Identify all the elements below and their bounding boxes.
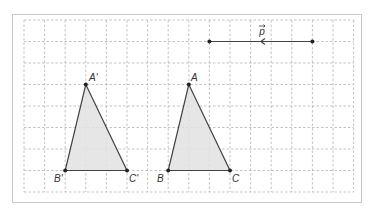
vertex-label: B (157, 173, 164, 184)
vertex-point (228, 169, 232, 173)
vector-p-start-point (310, 40, 314, 44)
vector-p-label: p (258, 26, 265, 37)
vertex-point (125, 169, 129, 173)
vertex-point (84, 83, 88, 87)
vertex-point (166, 169, 170, 173)
translation-diagram: A'B'C'ABC p (0, 0, 370, 212)
vertex-label: C (232, 173, 240, 184)
vertex-point (63, 169, 67, 173)
vertex-label: B' (54, 173, 64, 184)
vector-p-end-point (207, 40, 211, 44)
vertex-label: C' (129, 173, 139, 184)
vertex-point (187, 83, 191, 87)
vertex-label: A' (88, 72, 99, 83)
vertex-label: A (190, 72, 198, 83)
